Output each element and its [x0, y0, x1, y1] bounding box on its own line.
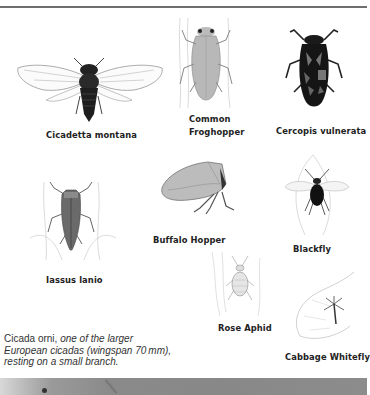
rose-aphid-illustration — [208, 252, 268, 316]
label-iassus-lanio: Iassus lanio — [46, 274, 103, 286]
caption-line-1: Cicada orni, one of the larger — [4, 333, 171, 345]
common-froghopper-illustration — [176, 18, 236, 108]
cercopis-vulnerata-illustration — [284, 26, 344, 108]
caption-species: Cicada orni, — [4, 333, 57, 344]
label-cercopis-vulnerata: Cercopis vulnerata — [276, 125, 366, 137]
label-blackfly: Blackfly — [293, 243, 331, 255]
label-common-froghopper-line2: Froghopper — [189, 126, 244, 138]
photo-caption: Cicada orni, one of the larger European … — [4, 333, 171, 368]
top-rule — [0, 6, 367, 8]
caption-line-3: resting on a small branch. — [4, 356, 171, 368]
photo-dark-spot — [42, 388, 47, 393]
buffalo-hopper-illustration — [158, 160, 238, 222]
cabbage-whitefly-illustration — [290, 270, 360, 342]
photo-branch-streak — [105, 379, 117, 393]
blackfly-illustration — [283, 155, 351, 235]
cicadetta-montana-illustration — [14, 56, 164, 122]
iassus-lanio-illustration — [28, 178, 118, 260]
caption-italic-1: one of the larger — [57, 333, 133, 344]
label-cicadetta-montana: Cicadetta montana — [46, 129, 137, 141]
cicada-orni-photo — [0, 378, 367, 395]
caption-line-2: European cicadas (wingspan 70 mm), — [4, 345, 171, 357]
label-rose-aphid: Rose Aphid — [218, 322, 272, 334]
label-cabbage-whitefly: Cabbage Whitefly — [285, 351, 370, 363]
label-common-froghopper-line1: Common — [189, 113, 231, 125]
label-buffalo-hopper: Buffalo Hopper — [153, 234, 226, 246]
